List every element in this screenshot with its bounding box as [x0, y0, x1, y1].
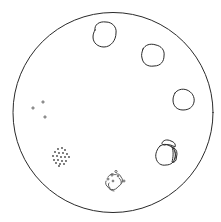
diagram-canvas — [0, 0, 221, 222]
stage-5-fragmented-cell — [106, 170, 125, 191]
stage-7-sparse-dots — [32, 101, 46, 118]
stage-2-intact-cell — [142, 44, 165, 66]
stage-3-intact-cell — [173, 89, 194, 110]
stage-1-intact-cell — [93, 22, 116, 47]
stage-6-dot-cluster — [52, 147, 70, 167]
stage-4-splitting-cell — [156, 140, 177, 165]
diagram-svg — [0, 0, 221, 222]
